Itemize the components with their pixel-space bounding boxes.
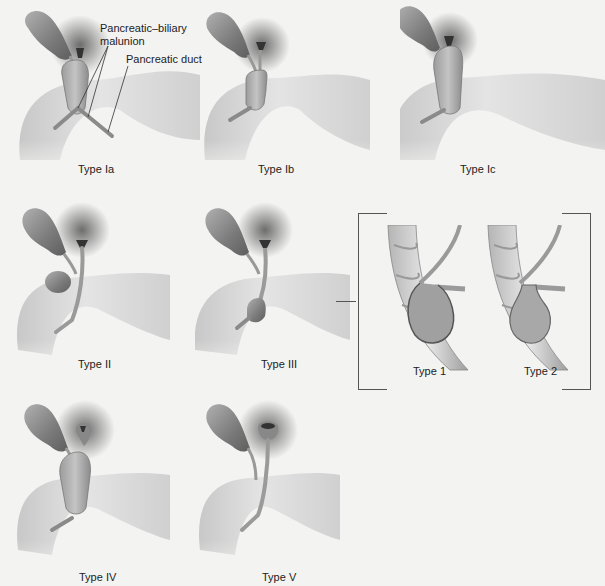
panel-type-iv: Type IV [0,390,180,586]
panel-type-ic: Type Ic [400,0,605,180]
subtype-1-illustration [380,225,475,385]
panel-type-ii: Type II [0,190,170,380]
subtype-2-illustration [480,225,575,385]
connector-line [336,301,356,302]
caption-type-ic: Type Ic [460,163,495,175]
type-ib-illustration [200,0,400,180]
caption-type-v: Type V [262,571,296,583]
panel-type-v: Type V [180,390,360,586]
type-ic-illustration [400,0,605,180]
caption-type-ib: Type Ib [258,163,294,175]
panel-subtype-1 [380,225,475,385]
label-pancreatic-duct: Pancreatic duct [126,53,202,66]
type-v-illustration [180,390,360,586]
panel-subtype-2 [480,225,575,385]
panel-type-ia: Pancreatic–biliary malunion Pancreatic d… [0,0,200,180]
caption-type-2: Type 2 [524,365,557,377]
type-ii-illustration [0,190,170,380]
type-iv-illustration [0,390,180,586]
caption-type-ii: Type II [78,358,111,370]
caption-type-ia: Type Ia [78,163,114,175]
panel-type-ib: Type Ib [200,0,400,180]
caption-type-iv: Type IV [79,571,116,583]
panel-type-iii: Type III [195,190,355,380]
label-pancreatic-biliary-malunion: Pancreatic–biliary malunion [100,22,187,48]
label-line-2: malunion [100,35,187,48]
caption-type-1: Type 1 [413,365,446,377]
label-line-1: Pancreatic–biliary [100,22,187,35]
caption-type-iii: Type III [261,358,297,370]
type-iii-illustration [195,190,355,380]
